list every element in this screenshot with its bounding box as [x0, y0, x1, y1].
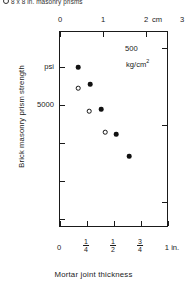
legend-entry: 8 x 8 in. masonry prisms	[3, 0, 83, 5]
tick-bottom-1	[168, 221, 169, 226]
legend-label: 8 x 8 in. masonry prisms	[11, 0, 83, 5]
tick-right-500	[162, 48, 167, 49]
x-axis-title: Mortar joint thickness	[0, 270, 187, 279]
tick-right-mid	[162, 125, 167, 126]
top-tick-label-2: 2	[144, 15, 148, 24]
tick-right-lower	[162, 202, 167, 203]
bottom-tick-label-3-4: 34	[137, 238, 143, 253]
open-circle-icon	[3, 0, 9, 4]
data-point-filled-1	[76, 65, 81, 70]
tick-bottom-3-4	[141, 221, 142, 226]
data-point-open-3	[103, 130, 108, 135]
top-tick-label-0: 0	[58, 15, 62, 24]
bottom-tick-label-1in: 1 in.	[165, 243, 179, 252]
tick-bottom-1-2	[114, 221, 115, 226]
data-point-open-2	[87, 109, 92, 114]
plot-frame	[59, 31, 168, 227]
bottom-tick-label-0: 0	[57, 243, 61, 252]
tick-left-bottom	[60, 219, 65, 220]
tick-bottom-0	[60, 221, 61, 226]
tick-top-0	[60, 32, 61, 37]
data-point-filled-4	[114, 132, 119, 137]
tick-left-upper	[60, 67, 65, 68]
top-tick-label-1: 1	[101, 15, 105, 24]
bottom-tick-label-1-2: 12	[110, 238, 116, 253]
data-point-filled-2	[88, 82, 93, 87]
figure-scatter-plot: 8 x 8 in. masonry prisms Brick masonry p…	[0, 0, 187, 292]
left-tick-label-5000: 5000	[18, 100, 54, 109]
data-point-filled-5	[127, 154, 132, 159]
data-point-open-1	[76, 86, 81, 91]
bottom-tick-label-1-4: 14	[83, 238, 89, 253]
top-axis-unit-label: cm	[152, 15, 162, 24]
left-unit-psi-label: psi	[24, 62, 54, 71]
tick-top-1	[103, 32, 104, 37]
tick-bottom-1-4	[87, 221, 88, 226]
tick-left-lower	[60, 181, 65, 182]
tick-left-5000	[60, 105, 65, 106]
tick-left-mid	[60, 143, 65, 144]
data-point-filled-3	[99, 107, 104, 112]
tick-top-2	[146, 32, 147, 37]
top-tick-label-3: 3	[180, 15, 184, 24]
